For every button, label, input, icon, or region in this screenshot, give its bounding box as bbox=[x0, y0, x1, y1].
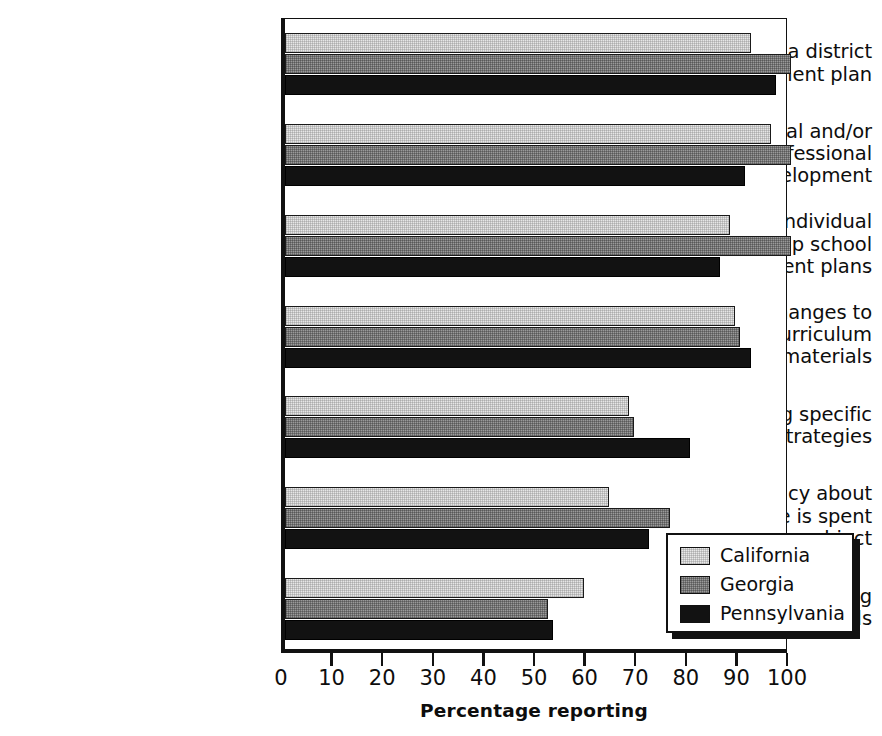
bar-california bbox=[285, 215, 730, 235]
legend-label-georgia: Georgia bbox=[720, 575, 795, 594]
bar-pennsylvania bbox=[285, 529, 649, 549]
x-axis-tick-label: 20 bbox=[369, 666, 396, 690]
x-axis-tick bbox=[330, 653, 333, 666]
x-axis-tick-label: 90 bbox=[723, 666, 750, 690]
bar-pennsylvania bbox=[285, 166, 745, 186]
bar-california bbox=[285, 396, 629, 416]
chart-legend: California Georgia Pennsylvania bbox=[666, 533, 854, 633]
bar-california bbox=[285, 487, 609, 507]
legend-label-california: California bbox=[720, 546, 810, 565]
x-axis-tick-label: 100 bbox=[767, 666, 807, 690]
x-axis-tick bbox=[482, 653, 485, 666]
legend-label-pennsylvania: Pennsylvania bbox=[720, 604, 845, 623]
bar-georgia bbox=[285, 599, 548, 619]
bar-pennsylvania bbox=[285, 620, 553, 640]
x-axis-title: Percentage reporting bbox=[281, 700, 787, 721]
x-axis-tick bbox=[735, 653, 738, 666]
bar-georgia bbox=[285, 54, 791, 74]
x-axis-tick bbox=[685, 653, 688, 666]
x-axis-tick-label: 60 bbox=[571, 666, 598, 690]
bar-georgia bbox=[285, 145, 791, 165]
bar-georgia bbox=[285, 236, 791, 256]
bar-chart-figure: Developing a district improvement planFo… bbox=[0, 0, 882, 736]
x-axis-tick bbox=[786, 653, 789, 666]
x-axis-tick-label: 0 bbox=[274, 666, 287, 690]
bar-pennsylvania bbox=[285, 75, 776, 95]
bar-california bbox=[285, 124, 771, 144]
bar-pennsylvania bbox=[285, 438, 690, 458]
x-axis-tick bbox=[583, 653, 586, 666]
legend-swatch-california-icon bbox=[680, 547, 710, 565]
bar-georgia bbox=[285, 417, 634, 437]
legend-swatch-georgia-icon bbox=[680, 576, 710, 594]
bar-california bbox=[285, 578, 584, 598]
bar-california bbox=[285, 33, 751, 53]
x-axis-tick bbox=[533, 653, 536, 666]
bar-pennsylvania bbox=[285, 348, 751, 368]
legend-item: Georgia bbox=[680, 570, 852, 599]
x-axis-tick-label: 70 bbox=[622, 666, 649, 690]
x-axis-tick-label: 80 bbox=[672, 666, 699, 690]
x-axis-tick bbox=[432, 653, 435, 666]
x-axis-tick-label: 30 bbox=[419, 666, 446, 690]
legend-swatch-pennsylvania-icon bbox=[680, 605, 710, 623]
x-axis-tick-label: 50 bbox=[521, 666, 548, 690]
x-axis-tick-label: 40 bbox=[470, 666, 497, 690]
x-axis-tick bbox=[634, 653, 637, 666]
legend-item: Pennsylvania bbox=[680, 599, 852, 628]
bar-georgia bbox=[285, 327, 740, 347]
bar-pennsylvania bbox=[285, 257, 720, 277]
x-axis-tick-label: 10 bbox=[318, 666, 345, 690]
x-axis-tick bbox=[381, 653, 384, 666]
bar-georgia bbox=[285, 508, 670, 528]
bar-california bbox=[285, 306, 735, 326]
legend-item: California bbox=[680, 541, 852, 570]
